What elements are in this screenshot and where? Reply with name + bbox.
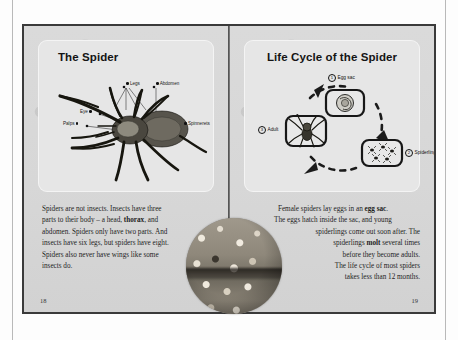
spiderlings-box xyxy=(362,140,402,166)
photo-vignette xyxy=(186,218,282,314)
arrow-left-bottom xyxy=(304,162,318,174)
anatomy-label-legs: Legs xyxy=(126,81,140,86)
egg-sac-box xyxy=(326,90,364,116)
book-spread-screenshot: The Spider xyxy=(0,0,458,340)
anatomy-label-palps-text: Palps xyxy=(63,121,75,126)
label-dot-eye xyxy=(89,110,92,113)
body-line-2-a: parts to their body – a head, xyxy=(42,216,124,224)
outer-frame-line-right xyxy=(445,0,446,340)
stage-number-2: 2 xyxy=(405,149,413,157)
body-line-4-a: spiderlings xyxy=(333,239,366,247)
life-cycle-label-spiderlings: 2Spiderlings xyxy=(405,149,434,157)
spider-anatomy-diagram: Legs Abdomen Eye Palps Spinnerets xyxy=(38,66,214,190)
stage-label-adult: Adult xyxy=(268,127,279,132)
egg-sac-photograph xyxy=(186,218,282,314)
page-number-right: 19 xyxy=(412,297,419,304)
body-line-1-a: Female spiders lay eggs in an xyxy=(278,205,365,213)
adult-spider-box xyxy=(286,116,326,147)
spider-anatomy-panel: The Spider xyxy=(38,40,214,192)
life-cycle-label-egg-sac: 1Egg sac xyxy=(328,74,355,82)
label-dot-palps xyxy=(76,122,79,125)
stage-label-egg-sac: Egg sac xyxy=(338,75,355,80)
body-line-4-bold: molt xyxy=(366,239,380,247)
outer-frame-line-left xyxy=(12,0,13,340)
anatomy-label-palps: Palps xyxy=(63,121,78,126)
anatomy-label-spinnerets: Spinnerets xyxy=(184,121,210,126)
body-line-1: Female spiders lay eggs in an egg sac. xyxy=(246,204,420,215)
body-line-2-bold: thorax xyxy=(124,216,144,224)
body-line-1: Spiders are not insects. Insects have th… xyxy=(42,204,214,215)
anatomy-label-spinnerets-text: Spinnerets xyxy=(188,121,210,126)
stage-number-1: 1 xyxy=(328,74,336,82)
anatomy-label-eye: Eye xyxy=(80,109,92,114)
label-dot-abdomen xyxy=(156,82,159,85)
life-cycle-panel: Life Cycle of the Spider xyxy=(244,40,420,192)
anatomy-label-legs-text: Legs xyxy=(130,81,140,86)
anatomy-label-eye-text: Eye xyxy=(80,109,88,114)
body-line-4-b: several times xyxy=(380,239,420,247)
body-line-1-b: . xyxy=(386,205,388,213)
page-title-left: The Spider xyxy=(58,51,118,63)
stage-number-3: 3 xyxy=(258,126,266,134)
page-number-left: 18 xyxy=(40,297,47,304)
page-title-right: Life Cycle of the Spider xyxy=(244,51,420,63)
stage-label-spiderlings: Spiderlings xyxy=(415,150,435,155)
body-line-1-bold: egg sac xyxy=(365,205,387,213)
anatomy-label-abdomen-text: Abdomen xyxy=(160,81,180,86)
anatomy-label-abdomen: Abdomen xyxy=(156,81,179,86)
label-dot-spinnerets xyxy=(184,122,187,125)
body-line-2-b: , and xyxy=(144,216,158,224)
spider-life-cycle-diagram: 1Egg sac 2Spiderlings 3Adult xyxy=(244,64,420,192)
label-dot-legs xyxy=(126,82,129,85)
life-cycle-label-adult: 3Adult xyxy=(258,126,278,134)
